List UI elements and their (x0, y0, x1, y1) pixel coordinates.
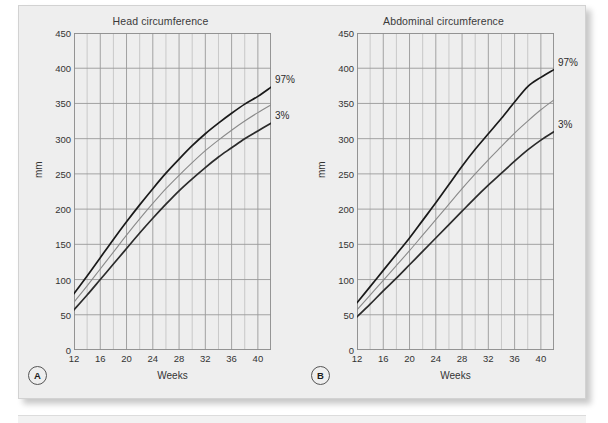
panel-letter-a: A (28, 366, 47, 385)
percentile-curve-3pct (357, 132, 554, 317)
x-axis-labels-b: 1216202428323640 (357, 353, 554, 367)
y-axis-tick-label: 200 (41, 204, 71, 215)
figure-card: Head circumference 050100150200250300350… (18, 5, 586, 399)
x-axis-tick-label: 28 (449, 353, 475, 364)
panel-b: Abdominal circumference 0501001502002503… (302, 6, 585, 398)
x-axis-tick-label: 24 (140, 353, 166, 364)
plot-frame (357, 33, 553, 349)
figure-page: Head circumference 050100150200250300350… (0, 0, 608, 423)
page-bottom-strip (18, 415, 586, 423)
y-axis-tick-label: 200 (324, 204, 354, 215)
y-axis-tick-label: 350 (41, 98, 71, 109)
percentile-curve-3pct (74, 123, 271, 310)
annotation-3-percent-a: 3% (275, 110, 289, 121)
x-axis-tick-label: 36 (502, 353, 528, 364)
plot-svg-a (74, 33, 271, 350)
x-axis-tick-label: 12 (344, 353, 370, 364)
y-axis-title-b: mm (316, 161, 327, 178)
panel-a: Head circumference 050100150200250300350… (19, 6, 302, 398)
x-axis-tick-label: 32 (192, 353, 218, 364)
panel-letter-b: B (311, 366, 330, 385)
percentile-curve-97pct (357, 70, 554, 303)
y-axis-tick-label: 250 (41, 168, 71, 179)
y-axis-tick-label: 350 (324, 98, 354, 109)
y-axis-tick-label: 100 (41, 274, 71, 285)
y-axis-tick-label: 150 (324, 239, 354, 250)
y-axis-tick-label: 450 (324, 28, 354, 39)
x-axis-tick-label: 12 (61, 353, 87, 364)
y-axis-tick-label: 450 (41, 28, 71, 39)
percentile-curve-50pct (74, 105, 271, 302)
y-axis-tick-label: 300 (324, 133, 354, 144)
x-axis-tick-label: 36 (219, 353, 245, 364)
x-axis-title-a: Weeks (74, 370, 271, 381)
y-axis-tick-label: 150 (41, 239, 71, 250)
annotation-97-percent-b: 97% (558, 57, 578, 68)
x-axis-title-b: Weeks (357, 370, 554, 381)
plot-svg-b (357, 33, 554, 350)
y-axis-title-a: mm (33, 161, 44, 178)
x-axis-tick-label: 16 (370, 353, 396, 364)
percentile-curve-50pct (357, 100, 554, 310)
x-axis-tick-label: 32 (475, 353, 501, 364)
x-axis-tick-label: 20 (114, 353, 140, 364)
x-axis-tick-label: 40 (528, 353, 554, 364)
y-axis-tick-label: 50 (41, 309, 71, 320)
plot-area-a (74, 33, 271, 350)
x-axis-labels-a: 1216202428323640 (74, 353, 271, 367)
chart-title-a: Head circumference (19, 15, 302, 27)
annotation-3-percent-b: 3% (558, 119, 572, 130)
x-axis-tick-label: 16 (87, 353, 113, 364)
plot-frame (74, 33, 270, 349)
y-axis-labels-a: 050100150200250300350400450 (40, 33, 71, 350)
percentile-curve-97pct (74, 87, 271, 293)
chart-title-b: Abdominal circumference (302, 15, 585, 27)
x-axis-tick-label: 24 (423, 353, 449, 364)
y-axis-tick-label: 50 (324, 309, 354, 320)
x-axis-tick-label: 40 (245, 353, 271, 364)
y-axis-tick-label: 100 (324, 274, 354, 285)
y-axis-tick-label: 400 (324, 63, 354, 74)
annotation-97-percent-a: 97% (275, 74, 295, 85)
y-axis-tick-label: 250 (324, 168, 354, 179)
y-axis-labels-b: 050100150200250300350400450 (323, 33, 354, 350)
x-axis-tick-label: 28 (166, 353, 192, 364)
y-axis-tick-label: 300 (41, 133, 71, 144)
x-axis-tick-label: 20 (397, 353, 423, 364)
plot-area-b (357, 33, 554, 350)
y-axis-tick-label: 400 (41, 63, 71, 74)
